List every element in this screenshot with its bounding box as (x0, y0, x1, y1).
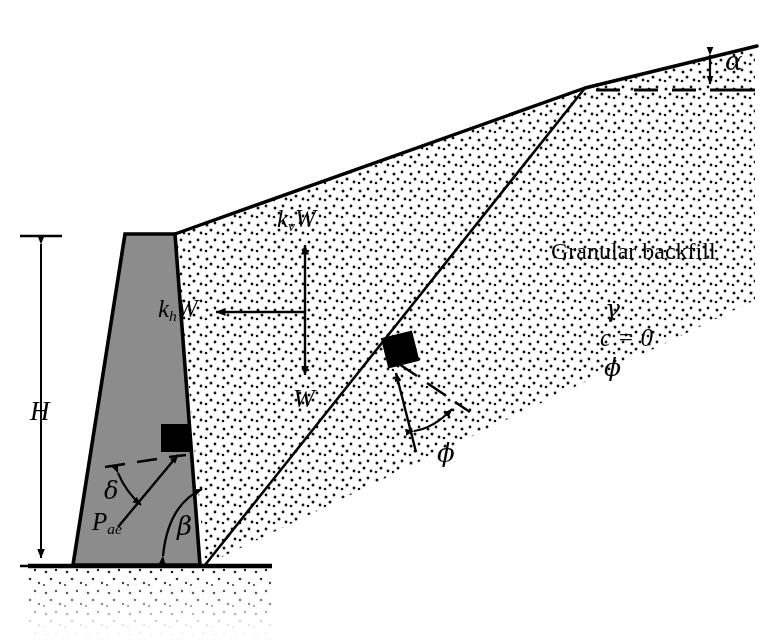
kv-subscript: v (288, 217, 295, 234)
unit-weight-label: γ (605, 296, 620, 321)
friction-angle-label: ϕ (604, 355, 621, 380)
pae-symbol: P (92, 508, 107, 535)
alpha-angle-label: α (725, 48, 743, 74)
figure-canvas: H kvW khW W α δ Pae β ϕ Granular backfil… (0, 0, 769, 642)
active-thrust-label: Pae (92, 509, 122, 537)
kh-symbol: k (158, 295, 169, 322)
kh-suffix: W (177, 295, 198, 322)
vertical-inertia-label: kvW (277, 206, 316, 234)
delta-angle-label: δ (104, 479, 118, 503)
pae-subscript: ae (107, 520, 122, 537)
phi-angle-label: ϕ (437, 440, 455, 466)
backfill-title-label: Granular backfill (551, 239, 716, 263)
cohesion-label: c = 0 (600, 325, 653, 350)
weight-label: W (293, 386, 315, 412)
beta-angle-label: β (177, 513, 192, 539)
diagram-svg (0, 0, 769, 642)
kv-suffix: W (295, 205, 316, 232)
kh-subscript: h (169, 307, 177, 324)
height-dimension-label: H (30, 398, 50, 425)
horizontal-inertia-label: khW (158, 296, 198, 324)
kv-symbol: k (277, 205, 288, 232)
active-thrust-application-marker (161, 424, 190, 452)
